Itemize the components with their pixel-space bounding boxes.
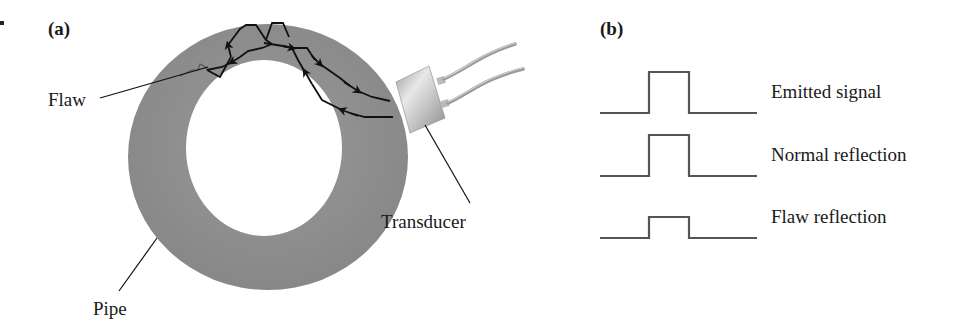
panel-b-label: (b) <box>600 18 623 40</box>
pipe-leader-line <box>119 238 157 291</box>
pipe-label: Pipe <box>93 298 127 319</box>
transducer <box>396 43 523 133</box>
flaw-reflection-waveform <box>600 217 757 238</box>
diagram-canvas: (a) <box>0 0 979 324</box>
emitted-signal-label: Emitted signal <box>771 81 881 102</box>
flaw-reflection-label: Flaw reflection <box>771 206 887 227</box>
panel-a-label: (a) <box>48 18 70 40</box>
flaw-label: Flaw <box>48 89 86 110</box>
normal-reflection-waveform <box>600 135 757 176</box>
transducer-leader-line <box>425 125 470 203</box>
transducer-label: Transducer <box>381 211 466 232</box>
corner-mark <box>0 21 4 25</box>
emitted-signal-waveform <box>600 72 757 113</box>
normal-reflection-label: Normal reflection <box>771 144 907 165</box>
pipe-cross-section <box>128 24 408 290</box>
